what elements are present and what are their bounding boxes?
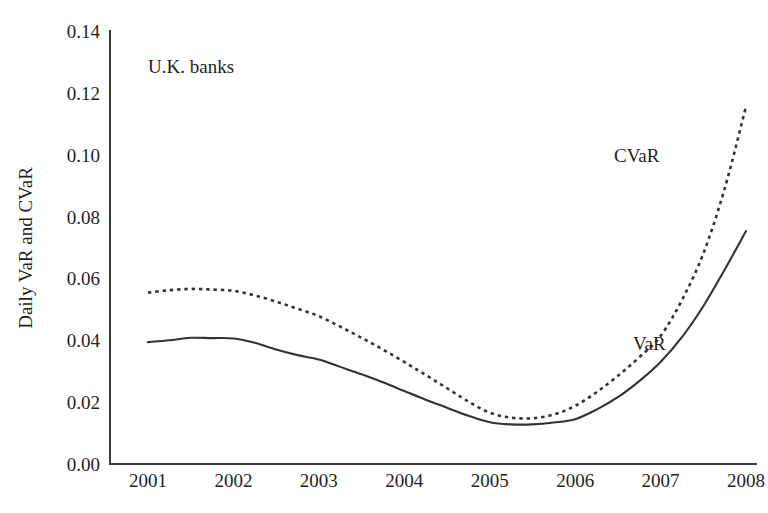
- y-tick-label: 0.12: [67, 83, 100, 104]
- y-tick-label: 0.00: [67, 454, 100, 475]
- x-tick-label: 2006: [556, 470, 594, 491]
- y-axis-title: Daily VaR and CVaR: [15, 167, 36, 329]
- x-tick-label: 2004: [385, 470, 424, 491]
- y-tick-label: 0.04: [67, 330, 101, 351]
- series-label-var: VaR: [633, 333, 666, 354]
- series-label-cvar: CVaR: [614, 145, 660, 166]
- x-tick-labels: 20012002200320042005200620072008: [129, 470, 765, 491]
- x-tick-label: 2003: [300, 470, 338, 491]
- y-tick-label: 0.06: [67, 268, 100, 289]
- x-tick-label: 2001: [129, 470, 167, 491]
- y-tick-label: 0.10: [67, 145, 100, 166]
- y-tick-label: 0.14: [67, 21, 101, 42]
- series-line-var: [148, 231, 746, 425]
- x-tick-label: 2007: [642, 470, 680, 491]
- y-tick-label: 0.08: [67, 207, 100, 228]
- x-tick-label: 2005: [471, 470, 509, 491]
- line-chart: 0.000.020.040.060.080.100.120.14 2001200…: [0, 0, 768, 513]
- y-tick-labels: 0.000.020.040.060.080.100.120.14: [67, 21, 101, 475]
- y-tick-label: 0.02: [67, 392, 100, 413]
- x-tick-label: 2008: [727, 470, 765, 491]
- plot-annotation-uk-banks: U.K. banks: [148, 56, 234, 77]
- x-tick-label: 2002: [214, 470, 252, 491]
- chart-page: 0.000.020.040.060.080.100.120.14 2001200…: [0, 0, 768, 513]
